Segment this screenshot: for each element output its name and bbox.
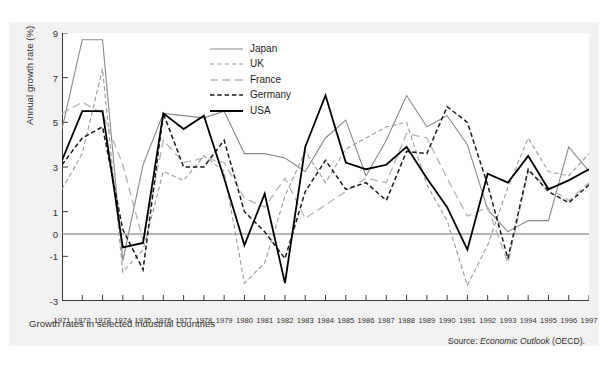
x-tick-label-1986: 1986	[358, 316, 375, 325]
legend-line-sample	[210, 106, 243, 116]
figure-panel: Annual growth rate (%) 975310-1-3 197119…	[9, 22, 599, 346]
y-tick-label-4: 1	[53, 206, 58, 217]
legend-swatch-japan-icon	[210, 44, 243, 54]
x-tick-label-1987: 1987	[378, 316, 395, 325]
legend-item-france[interactable]: France	[210, 72, 291, 88]
x-tick-label-1990: 1990	[439, 316, 456, 325]
y-tick-label-3: 3	[53, 162, 58, 173]
legend-label-japan: Japan	[250, 44, 277, 54]
x-tick-label-1981: 1981	[256, 316, 273, 325]
chart-legend: JapanUKFranceGermanyUSA	[210, 41, 291, 119]
legend-line-sample	[210, 59, 243, 69]
legend-item-uk[interactable]: UK	[210, 57, 291, 73]
series-line-germany	[62, 107, 589, 270]
legend-label-uk: UK	[250, 59, 264, 69]
plot-wrapper: Annual growth rate (%) 975310-1-3 197119…	[62, 33, 589, 301]
legend-item-germany[interactable]: Germany	[210, 88, 291, 104]
x-tick-label-1988: 1988	[398, 316, 415, 325]
x-tick-label-1985: 1985	[337, 316, 354, 325]
x-tick-label-1994: 1994	[520, 316, 537, 325]
source-publication: Economic Outlook	[480, 336, 550, 346]
y-axis-label: Annual growth rate (%)	[24, 0, 35, 125]
legend-line-sample	[210, 44, 243, 54]
x-tick-label-1980: 1980	[236, 316, 253, 325]
x-tick-label-1996: 1996	[560, 316, 577, 325]
legend-label-usa: USA	[250, 106, 271, 116]
y-tick-label-7: -3	[50, 296, 58, 307]
legend-line-sample	[210, 90, 243, 100]
x-tick-label-1991: 1991	[459, 316, 476, 325]
series-line-japan	[62, 40, 589, 261]
axes-group	[62, 33, 589, 301]
data-series-group	[62, 40, 589, 286]
x-tick-label-1992: 1992	[479, 316, 496, 325]
y-tick-label-6: -1	[50, 251, 58, 262]
y-tick-label-0: 9	[53, 28, 58, 39]
source-suffix: (OECD).	[550, 336, 585, 346]
legend-swatch-france-icon	[210, 75, 243, 85]
tick-marks-group	[62, 33, 589, 301]
legend-line-sample	[210, 75, 243, 85]
x-tick-label-1993: 1993	[499, 316, 516, 325]
x-tick-label-1979: 1979	[216, 316, 233, 325]
y-tick-label-2: 5	[53, 117, 58, 128]
x-tick-label-1984: 1984	[317, 316, 334, 325]
legend-item-japan[interactable]: Japan	[210, 41, 291, 57]
x-tick-label-1995: 1995	[540, 316, 557, 325]
y-tick-label-1: 7	[53, 72, 58, 83]
source-prefix: Source:	[448, 336, 480, 346]
chart-svg	[62, 33, 589, 301]
x-tick-label-1989: 1989	[418, 316, 435, 325]
legend-swatch-usa-icon	[210, 106, 243, 116]
figure-source: Source: Economic Outlook (OECD).	[448, 336, 585, 346]
y-tick-label-5: 0	[53, 229, 58, 240]
legend-label-germany: Germany	[250, 90, 291, 100]
legend-item-usa[interactable]: USA	[210, 103, 291, 119]
x-tick-label-1982: 1982	[277, 316, 294, 325]
legend-swatch-germany-icon	[210, 90, 243, 100]
plot-area	[62, 33, 589, 301]
legend-swatch-uk-icon	[210, 59, 243, 69]
legend-label-france: France	[250, 75, 281, 85]
x-tick-label-1997: 1997	[581, 316, 598, 325]
figure-caption: Growth rates in selected industrial coun…	[29, 318, 215, 329]
x-tick-label-1983: 1983	[297, 316, 314, 325]
